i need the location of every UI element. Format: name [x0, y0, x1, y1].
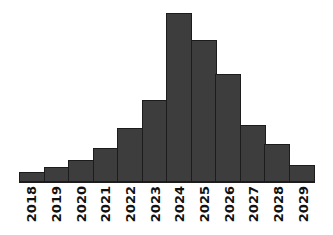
- bar-chart: 2018 2019 2020 2021 2022 2023 2024 2025 …: [0, 0, 333, 235]
- bar-2024[interactable]: [166, 13, 192, 182]
- bar-2029[interactable]: [289, 165, 315, 182]
- x-axis-line: [19, 181, 315, 183]
- x-tick-label-2026: 2026: [222, 186, 235, 222]
- x-tick-label-2021: 2021: [99, 186, 112, 222]
- x-tick-label-2025: 2025: [198, 186, 211, 222]
- bar-2027[interactable]: [240, 125, 266, 182]
- bar-2023[interactable]: [142, 100, 168, 182]
- x-tick-label-2029: 2029: [296, 186, 309, 222]
- bar-2025[interactable]: [191, 40, 217, 182]
- x-tick-2029: 2029: [290, 184, 315, 235]
- x-tick-2021: 2021: [93, 184, 118, 235]
- x-tick-label-2027: 2027: [247, 186, 260, 222]
- x-tick-label-2019: 2019: [50, 186, 63, 222]
- x-tick-label-2024: 2024: [173, 186, 186, 222]
- x-tick-2019: 2019: [44, 184, 69, 235]
- x-tick-label-2018: 2018: [25, 186, 38, 222]
- plot-area: [19, 0, 315, 183]
- x-tick-2023: 2023: [142, 184, 167, 235]
- x-tick-2025: 2025: [192, 184, 217, 235]
- x-tick-2028: 2028: [266, 184, 291, 235]
- x-axis-tick-labels: 2018 2019 2020 2021 2022 2023 2024 2025 …: [19, 184, 315, 235]
- x-tick-2020: 2020: [68, 184, 93, 235]
- bar-2019[interactable]: [44, 167, 70, 182]
- bar-2028[interactable]: [264, 144, 290, 182]
- x-tick-label-2023: 2023: [148, 186, 161, 222]
- x-tick-2024: 2024: [167, 184, 192, 235]
- x-tick-2027: 2027: [241, 184, 266, 235]
- x-tick-label-2028: 2028: [272, 186, 285, 222]
- x-tick-2022: 2022: [118, 184, 143, 235]
- bar-series: [19, 0, 315, 182]
- x-tick-2018: 2018: [19, 184, 44, 235]
- bar-2021[interactable]: [93, 148, 119, 182]
- bar-2020[interactable]: [68, 160, 94, 182]
- x-tick-label-2022: 2022: [124, 186, 137, 222]
- bar-2022[interactable]: [117, 128, 143, 182]
- x-tick-2026: 2026: [216, 184, 241, 235]
- bar-2026[interactable]: [215, 74, 241, 182]
- x-tick-label-2020: 2020: [74, 186, 87, 222]
